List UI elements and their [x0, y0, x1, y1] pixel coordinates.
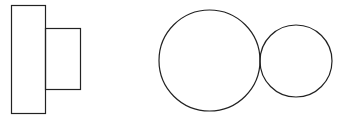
- small-rectangle: [46, 29, 81, 90]
- circles-group: [159, 10, 332, 111]
- small-circle: [260, 25, 332, 97]
- tall-rectangle: [12, 6, 46, 114]
- diagram-canvas: [0, 0, 341, 123]
- rectangles-group: [12, 6, 81, 114]
- large-circle: [159, 10, 260, 111]
